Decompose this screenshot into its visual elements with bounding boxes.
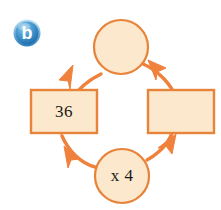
node-left-rectangle[interactable]: 36	[31, 90, 97, 133]
figure-root: x 4 36 b	[0, 0, 221, 210]
node-left-rectangle-label: 36	[55, 102, 73, 121]
arrow-bottom-to-left	[62, 136, 95, 168]
node-bottom-circle-label: x 4	[111, 166, 134, 185]
node-bottom-circle[interactable]: x 4	[95, 149, 149, 203]
node-right-rectangle[interactable]	[148, 90, 214, 133]
node-top-circle[interactable]	[94, 20, 148, 74]
cycle-diagram: x 4 36 b	[0, 0, 221, 210]
part-label-badge: b	[14, 20, 41, 47]
part-label-badge-text: b	[22, 23, 33, 43]
